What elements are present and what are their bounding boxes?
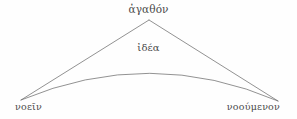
label-nooumenon: νοούμενον — [227, 102, 280, 112]
diagram-canvas: ἀγαθόν ἰδέα νοεῖν νοούμενον — [0, 0, 297, 119]
triangle-group — [21, 20, 278, 101]
base-arc — [21, 73, 278, 101]
label-agathon: ἀγαθόν — [0, 4, 297, 15]
label-noein: νοεῖν — [15, 102, 42, 112]
label-idea: ἰδέα — [0, 43, 297, 53]
triangle-right-side — [149, 20, 278, 101]
triangle-left-side — [21, 20, 149, 100]
